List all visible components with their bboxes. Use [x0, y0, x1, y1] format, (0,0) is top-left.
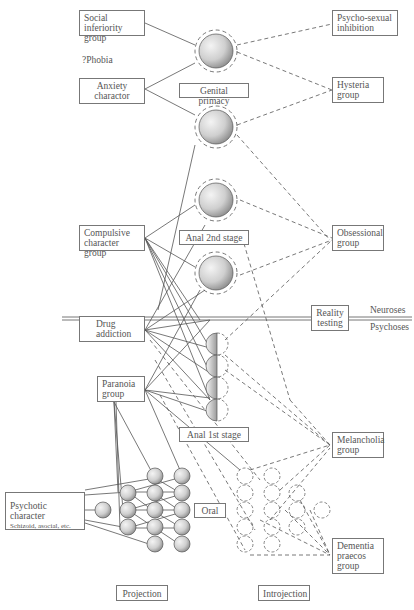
drug-addiction-box: Drug addiction — [79, 316, 145, 342]
psychotic-character-box: Psychotic character Schizoid, asocial, e… — [5, 492, 85, 530]
psychotic-character-subtitle: Schizoid, asocial, etc. — [10, 521, 80, 531]
oral-dashed-spheres — [237, 468, 330, 552]
paranoia-group-box: Paranoia group — [97, 376, 145, 402]
social-inferiority-box: Social inferiority group — [79, 10, 145, 36]
dementia-praecos-box: Dementia praecos group — [332, 538, 384, 574]
anal2-sphere-upper — [195, 179, 237, 221]
compulsive-character-box: Compulsive character group — [79, 225, 145, 251]
genital-primacy-label: Genital primacy — [179, 83, 249, 98]
genital-sphere-upper — [195, 30, 237, 72]
introjection-label: Introjection — [258, 585, 310, 601]
melancholia-group-box: Melancholia group — [332, 432, 384, 458]
anxiety-character-box: Anxiety charactor — [79, 78, 145, 104]
reality-testing-box: Reality testing — [311, 305, 349, 331]
anal1-half-spheres — [206, 333, 228, 421]
psycho-sexual-inhibition-box: Psycho-sexual inhibition — [332, 10, 398, 36]
psychoses-label: Psychoses — [370, 322, 409, 332]
neuroses-label: Neuroses — [370, 305, 405, 315]
obsessional-group-box: Obsessional group — [332, 225, 384, 251]
psychotic-character-title: Psychotic character — [10, 501, 47, 521]
oral-label: Oral — [194, 503, 226, 518]
hysteria-group-box: Hysteria group — [332, 77, 384, 103]
genital-sphere-lower — [195, 106, 237, 148]
phobia-label: ?Phobia — [82, 55, 113, 65]
projection-label: Projection — [116, 585, 168, 601]
anal-1st-stage-label: Anal 1st stage — [179, 427, 249, 442]
anal2-sphere-lower — [195, 252, 237, 294]
anal-2nd-stage-label: Anal 2nd stage — [179, 230, 249, 245]
